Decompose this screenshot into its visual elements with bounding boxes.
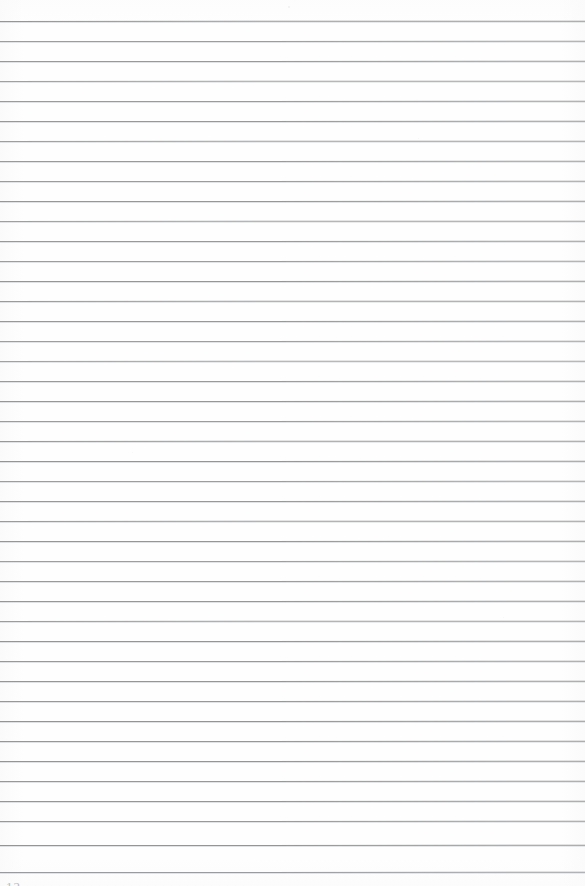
ruled-line bbox=[0, 845, 585, 846]
ruled-line bbox=[0, 872, 585, 873]
ruled-line bbox=[0, 421, 585, 422]
ruled-line bbox=[0, 541, 585, 542]
ruled-line bbox=[0, 741, 585, 742]
ruled-lines-layer bbox=[0, 0, 585, 886]
ruled-line bbox=[0, 181, 585, 182]
ruled-line bbox=[0, 801, 585, 802]
ruled-line bbox=[0, 361, 585, 362]
ruled-line bbox=[0, 161, 585, 162]
ruled-line bbox=[0, 201, 585, 202]
scanned-notebook-page: 12 bbox=[0, 0, 585, 886]
ruled-line bbox=[0, 341, 585, 342]
ruled-line bbox=[0, 321, 585, 322]
ruled-line bbox=[0, 481, 585, 482]
ruled-line bbox=[0, 601, 585, 602]
ruled-line bbox=[0, 281, 585, 282]
ruled-line bbox=[0, 381, 585, 382]
ruled-line bbox=[0, 261, 585, 262]
ruled-line bbox=[0, 81, 585, 82]
ruled-line bbox=[0, 561, 585, 562]
ruled-line bbox=[0, 821, 585, 822]
ruled-line bbox=[0, 721, 585, 722]
ruled-line bbox=[0, 461, 585, 462]
ruled-line bbox=[0, 661, 585, 662]
ruled-line bbox=[0, 441, 585, 442]
ruled-line bbox=[0, 101, 585, 102]
ruled-line bbox=[0, 241, 585, 242]
ruled-line bbox=[0, 221, 585, 222]
ruled-line bbox=[0, 21, 585, 22]
ruled-line bbox=[0, 781, 585, 782]
ruled-line bbox=[0, 121, 585, 122]
ruled-line bbox=[0, 701, 585, 702]
page-number: 12 bbox=[6, 880, 21, 886]
ruled-line bbox=[0, 581, 585, 582]
ruled-line bbox=[0, 621, 585, 622]
ruled-line bbox=[0, 761, 585, 762]
ruled-line bbox=[0, 521, 585, 522]
ruled-line bbox=[0, 401, 585, 402]
ruled-line bbox=[0, 141, 585, 142]
ruled-line bbox=[0, 41, 585, 42]
ruled-line bbox=[0, 641, 585, 642]
ruled-line bbox=[0, 501, 585, 502]
ruled-line bbox=[0, 681, 585, 682]
ruled-line bbox=[0, 61, 585, 62]
ruled-line bbox=[0, 301, 585, 302]
